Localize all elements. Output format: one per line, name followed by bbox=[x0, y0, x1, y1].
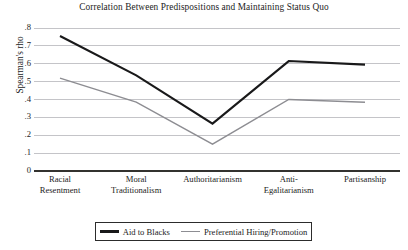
series-lines bbox=[34, 28, 400, 171]
y-tick-label: .4 bbox=[5, 94, 31, 104]
legend-swatch-icon bbox=[100, 230, 119, 232]
legend-entry: Preferential Hiring/Promotion bbox=[181, 227, 307, 237]
x-tick-label: Partisanship bbox=[344, 174, 386, 185]
chart-title: Correlation Between Predispositions and … bbox=[0, 2, 408, 12]
y-tick-label: .7 bbox=[5, 40, 31, 50]
legend-label: Aid to Blacks bbox=[123, 227, 170, 237]
y-tick-label: .5 bbox=[5, 76, 31, 86]
y-axis-tick-labels: .8.7.6.5.4.3.2.10 bbox=[0, 28, 31, 171]
series-line bbox=[60, 36, 365, 124]
x-tick-label: RacialResentment bbox=[40, 174, 81, 197]
x-tick-label: Authoritarianism bbox=[183, 174, 242, 185]
y-tick-label: 0 bbox=[5, 165, 31, 175]
legend-label: Preferential Hiring/Promotion bbox=[204, 227, 307, 237]
x-axis-tick-labels: RacialResentmentMoralTraditionalismAutho… bbox=[34, 174, 400, 204]
chart-figure: Correlation Between Predispositions and … bbox=[0, 0, 408, 250]
legend-swatch-icon bbox=[181, 231, 200, 232]
chart-legend: Aid to BlacksPreferential Hiring/Promoti… bbox=[95, 222, 312, 241]
y-tick-label: .6 bbox=[5, 58, 31, 68]
legend-entry: Aid to Blacks bbox=[100, 227, 170, 237]
y-tick-label: .2 bbox=[5, 129, 31, 139]
x-tick-label: Anti-Egalitarianism bbox=[264, 174, 314, 197]
y-tick-label: .1 bbox=[5, 147, 31, 157]
series-line bbox=[60, 78, 365, 144]
y-tick-label: .3 bbox=[5, 111, 31, 121]
y-tick-label: .8 bbox=[5, 22, 31, 32]
x-tick-label: MoralTraditionalism bbox=[111, 174, 161, 197]
plot-area bbox=[34, 28, 400, 171]
